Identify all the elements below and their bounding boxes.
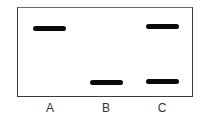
band-lane-c-upper — [146, 24, 179, 29]
band-lane-b — [90, 80, 123, 85]
lane-label-b: B — [98, 102, 114, 115]
lane-label-c: C — [154, 102, 170, 115]
lane-label-a: A — [42, 102, 58, 115]
band-lane-a — [33, 26, 66, 31]
band-lane-c-lower — [146, 79, 179, 84]
